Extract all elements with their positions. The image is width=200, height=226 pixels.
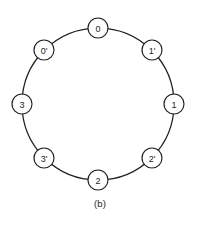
node-label: 3 bbox=[19, 100, 24, 110]
node-label: 2' bbox=[149, 154, 156, 164]
node-label: 0' bbox=[41, 46, 48, 56]
node-1-prime[interactable]: 1' bbox=[142, 40, 162, 60]
node-label: 0 bbox=[95, 24, 100, 34]
node-3[interactable]: 3 bbox=[12, 94, 32, 114]
node-0[interactable]: 0 bbox=[88, 18, 108, 38]
ring-nodes: 0 1' 1 2' 2 3' bbox=[12, 18, 184, 190]
node-2[interactable]: 2 bbox=[88, 170, 108, 190]
node-label: 2 bbox=[95, 176, 100, 186]
node-3-prime[interactable]: 3' bbox=[34, 148, 54, 168]
node-0-prime[interactable]: 0' bbox=[34, 40, 54, 60]
node-label: 1' bbox=[149, 46, 156, 56]
node-2-prime[interactable]: 2' bbox=[142, 148, 162, 168]
node-1[interactable]: 1 bbox=[164, 94, 184, 114]
ring-diagram: 0 1' 1 2' 2 3' bbox=[0, 0, 200, 226]
node-label: 1 bbox=[171, 100, 176, 110]
figure-caption: (b) bbox=[0, 198, 200, 209]
node-label: 3' bbox=[41, 154, 48, 164]
figure-container: 0 1' 1 2' 2 3' bbox=[0, 0, 200, 226]
